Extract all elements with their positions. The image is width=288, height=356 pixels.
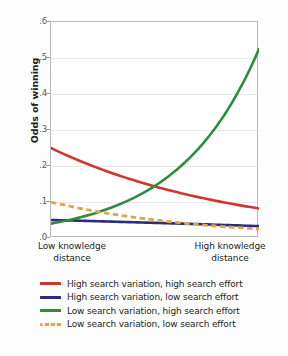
y-tick-label-0.2: .2 xyxy=(27,160,47,170)
y-tick-label-0.4: .4 xyxy=(27,88,47,98)
legend-swatch-icon-green xyxy=(40,306,61,316)
legend-item-low-var-high-effort: Low search variation, high search effort xyxy=(40,304,280,318)
x-axis-label-low-line1: Low knowledge xyxy=(24,241,120,253)
x-axis-label-low: Low knowledge distance xyxy=(24,241,120,264)
y-tick-label-0.5: .5 xyxy=(27,52,47,62)
legend-label-low-var-high-effort: Low search variation, high search effort xyxy=(67,306,240,316)
y-tick-label-0.1: .1 xyxy=(27,196,47,206)
series-line-high-var-high-effort xyxy=(51,148,259,208)
y-tick-label-0.6: .6 xyxy=(27,16,47,26)
legend-item-high-var-high-effort: High search variation, high search effor… xyxy=(40,277,280,291)
y-tick-label-0.3: .3 xyxy=(27,124,47,134)
legend-label-high-var-high-effort: High search variation, high search effor… xyxy=(67,279,243,289)
series-line-low-var-high-effort xyxy=(51,49,259,224)
legend-swatch-icon-navy xyxy=(40,292,61,302)
legend-swatch-icon-red xyxy=(40,279,61,289)
x-axis-label-low-line2: distance xyxy=(24,253,120,265)
legend-label-high-var-low-effort: High search variation, low search effort xyxy=(67,292,238,302)
legend-label-low-var-low-effort: Low search variation, low search effort xyxy=(67,319,236,329)
series-line-high-var-low-effort xyxy=(51,220,259,226)
x-axis-label-high-line1: High knowledge xyxy=(180,241,280,253)
x-axis-label-high-line2: distance xyxy=(180,253,280,265)
chart-figure: Odds of winning .6 .5 .4 .3 .2 .1 .0 Low… xyxy=(0,0,288,356)
plot-area xyxy=(50,21,258,237)
curves-group xyxy=(51,22,259,238)
legend-item-high-var-low-effort: High search variation, low search effort xyxy=(40,291,280,305)
y-tick-mark-0.0 xyxy=(46,237,50,238)
legend-item-low-var-low-effort: Low search variation, low search effort xyxy=(40,318,280,332)
legend-swatch-icon-orange-dashed xyxy=(40,319,61,329)
chart-legend: High search variation, high search effor… xyxy=(40,277,280,331)
x-axis-label-high: High knowledge distance xyxy=(180,241,280,264)
